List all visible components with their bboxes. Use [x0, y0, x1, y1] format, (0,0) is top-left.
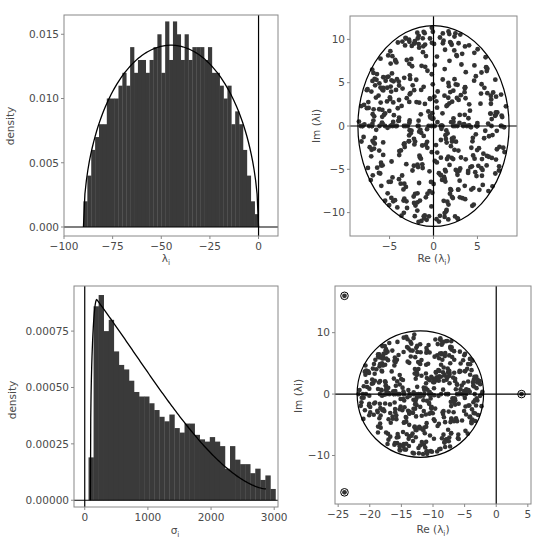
eigenvalue-point	[473, 398, 478, 403]
eigenvalue-point	[437, 422, 442, 427]
eigenvalue-point	[447, 381, 452, 386]
eigenvalue-point	[377, 170, 382, 175]
eigenvalue-point	[480, 157, 485, 162]
histogram-bar	[134, 392, 139, 500]
eigenvalue-point	[411, 439, 416, 444]
eigenvalue-point	[368, 405, 373, 410]
eigenvalue-point	[474, 403, 479, 408]
eigenvalue-point	[421, 29, 426, 34]
eigenvalue-point	[371, 118, 376, 123]
eigenvalue-point	[387, 95, 392, 100]
tl-xlabel: λi	[162, 252, 170, 267]
eigenvalue-point	[449, 345, 454, 350]
histogram-bar	[129, 381, 134, 501]
histogram-bar	[104, 331, 109, 500]
eigenvalue-point	[372, 362, 377, 367]
histogram-bar	[109, 320, 114, 500]
histogram-bar	[111, 99, 115, 227]
histogram-bar	[159, 417, 164, 500]
eigenvalue-point	[440, 111, 445, 116]
histogram-bar	[210, 437, 215, 500]
eigenvalue-point	[450, 136, 455, 141]
eigenvalue-point	[470, 164, 475, 169]
eigenvalue-point	[397, 444, 402, 449]
eigenvalue-point	[463, 85, 468, 90]
eigenvalue-point	[359, 139, 364, 144]
eigenvalue-point	[427, 378, 432, 383]
eigenvalue-point	[425, 68, 430, 73]
histogram-bar	[215, 442, 220, 501]
eigenvalue-point	[447, 368, 452, 373]
eigenvalue-point	[458, 93, 463, 98]
y-tick-label: 0.00025	[26, 438, 69, 450]
eigenvalue-point	[377, 148, 382, 153]
eigenvalue-point	[425, 127, 430, 132]
eigenvalue-point	[445, 339, 450, 344]
eigenvalue-point	[400, 173, 405, 178]
eigenvalue-point	[395, 40, 400, 45]
histogram-bar	[146, 73, 150, 227]
eigenvalue-point	[430, 82, 435, 87]
eigenvalue-point	[374, 127, 379, 132]
eigenvalue-point	[472, 78, 477, 83]
eigenvalue-point	[432, 417, 437, 422]
histogram-bar	[177, 34, 181, 227]
eigenvalue-point	[414, 373, 419, 378]
eigenvalue-point	[501, 145, 506, 150]
eigenvalue-point	[469, 187, 474, 192]
histogram-bar	[192, 47, 196, 227]
eigenvalue-point	[488, 111, 493, 116]
eigenvalue-point	[497, 164, 502, 169]
eigenvalue-point	[462, 90, 467, 95]
eigenvalue-point	[361, 384, 366, 389]
eigenvalue-point	[480, 183, 485, 188]
y-tick-label: 0.00050	[26, 381, 69, 393]
eigenvalue-point	[418, 443, 423, 448]
eigenvalue-point	[438, 155, 443, 160]
eigenvalue-point	[376, 430, 381, 435]
eigenvalue-point	[413, 355, 418, 360]
eigenvalue-point	[430, 450, 435, 455]
plot-area	[64, 15, 278, 236]
eigenvalue-point	[407, 133, 412, 138]
eigenvalue-point	[375, 72, 380, 77]
y-tick-label: 5	[338, 76, 345, 88]
histogram-bar	[169, 60, 173, 227]
histogram-bar	[196, 47, 200, 227]
x-tick-label: −15	[390, 508, 412, 520]
eigenvalue-point	[446, 409, 451, 414]
eigenvalue-point	[367, 145, 372, 150]
eigenvalue-point	[433, 337, 438, 342]
eigenvalue-point	[447, 58, 452, 63]
eigenvalue-point	[394, 60, 399, 65]
eigenvalue-point	[452, 400, 457, 405]
eigenvalue-point	[432, 386, 437, 391]
eigenvalue-point	[424, 440, 429, 445]
eigenvalue-point	[421, 50, 426, 55]
eigenvalue-point	[397, 382, 402, 387]
x-tick-label: −50	[150, 240, 172, 252]
eigenvalue-point	[404, 441, 409, 446]
eigenvalue-point	[421, 44, 426, 49]
eigenvalue-point	[403, 43, 408, 48]
eigenvalue-point	[445, 157, 450, 162]
eigenvalue-point	[408, 354, 413, 359]
histogram-bar	[208, 47, 212, 227]
eigenvalue-point	[440, 339, 445, 344]
eigenvalue-point	[451, 157, 456, 162]
histogram-bar	[91, 150, 95, 227]
eigenvalue-point	[460, 418, 465, 423]
y-tick-label: −10	[308, 449, 330, 461]
eigenvalue-point	[373, 83, 378, 88]
eigenvalue-point	[468, 372, 473, 377]
histogram-bar	[251, 201, 255, 227]
eigenvalue-point	[461, 381, 466, 386]
eigenvalue-point	[450, 99, 455, 104]
eigenvalue-point	[401, 187, 406, 192]
y-tick-label: 0.000	[29, 221, 59, 233]
eigenvalue-point	[421, 84, 426, 89]
eigenvalue-point	[398, 448, 403, 453]
eigenvalue-point	[377, 81, 382, 86]
eigenvalue-point	[371, 140, 376, 145]
eigenvalue-point	[389, 78, 394, 83]
